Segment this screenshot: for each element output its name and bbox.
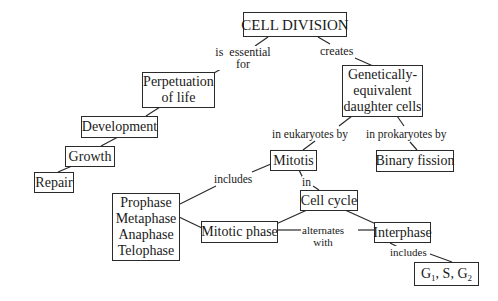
link-label-alternates-with: alternates with — [302, 224, 344, 248]
node-cell-division: CELL DIVISION — [243, 12, 347, 37]
link-label-creates: creates — [320, 45, 353, 57]
node-label-line: Prophase — [120, 195, 171, 211]
link-label-includes-phases: includes — [214, 173, 252, 185]
link-label-in-prokaryotes-by: in prokaryotes by — [366, 128, 446, 140]
node-label: Development — [82, 119, 157, 135]
node-label-line: equivalent — [353, 83, 411, 99]
node-label: Mitotis — [273, 153, 313, 169]
node-label: Interphase — [373, 225, 431, 241]
g1-label: G1 — [421, 266, 436, 282]
link-label-in: in — [302, 176, 311, 188]
node-development: Development — [81, 116, 158, 138]
link-label-includes-g: includes — [390, 246, 427, 258]
g2-label: G2 — [457, 266, 472, 282]
node-label: Repair — [35, 175, 72, 191]
node-mitotic-phase: Mitotic phase — [201, 221, 278, 243]
node-label-line: Perpetuation — [143, 74, 214, 90]
node-label: Mitotic phase — [201, 224, 278, 240]
node-label-line: Genetically- — [348, 67, 417, 83]
node-perpetuation-of-life: Perpetuation of life — [142, 72, 215, 108]
node-growth: Growth — [65, 146, 115, 167]
node-mitotis: Mitotis — [270, 150, 317, 171]
node-repair: Repair — [34, 172, 74, 193]
node-label: Cell cycle — [301, 193, 357, 209]
node-cell-cycle: Cell cycle — [300, 190, 358, 211]
node-label-line: Telophase — [118, 243, 175, 259]
s-label: , S, — [436, 266, 458, 282]
node-label-line: Anaphase — [118, 227, 173, 243]
node-label: Growth — [69, 149, 112, 165]
node-daughter-cells: Genetically- equivalent daughter cells — [342, 65, 423, 117]
node-label: Binary fission — [376, 153, 455, 169]
link-label-is-essential-for: is essential for — [213, 46, 273, 70]
node-binary-fission: Binary fission — [376, 150, 454, 172]
node-label-line: Metaphase — [116, 211, 177, 227]
node-label-line: daughter cells — [343, 99, 421, 115]
node-mitosis-phases: Prophase Metaphase Anaphase Telophase — [112, 193, 180, 261]
node-g1-s-g2: G1, S, G2 — [414, 262, 479, 286]
node-interphase: Interphase — [374, 222, 431, 243]
link-label-in-eukaryotes-by: in eukaryotes by — [272, 128, 348, 140]
node-label: CELL DIVISION — [241, 17, 348, 33]
node-label-line: of life — [162, 90, 196, 106]
